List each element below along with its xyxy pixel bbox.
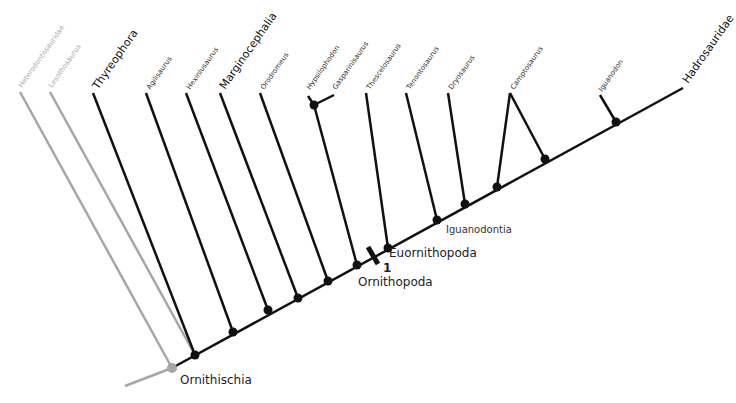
taxon-label: Orodromeus	[259, 51, 291, 91]
node	[294, 294, 303, 303]
node	[324, 277, 333, 286]
node-ornithischia	[167, 363, 177, 373]
taxon-label: Agilisaurus	[145, 55, 174, 91]
nodes	[167, 101, 621, 374]
node	[541, 155, 550, 164]
taxon-label: Hexinlusaurus	[185, 46, 220, 92]
clade-label-iguanodontia: Iguanodontia	[446, 224, 512, 235]
taxon-label: Tenontosaurus	[405, 45, 442, 92]
taxon-label: Hadrosauridae	[680, 12, 736, 86]
ingroup-branches	[93, 88, 683, 368]
branch-heterodontosauridae	[20, 92, 172, 368]
cladogram: Heterodontosauridae Lesothosaurus Thyreo…	[0, 0, 736, 403]
node	[461, 200, 470, 209]
node	[493, 183, 502, 192]
node-hypsilophodon-gasparinisaurus	[310, 101, 319, 110]
branch-hexinlusaurus	[186, 93, 268, 310]
taxon-label: Lesothosaurus	[47, 43, 83, 90]
node	[191, 351, 200, 360]
branch-lesothosaurus	[50, 92, 195, 355]
node	[612, 118, 621, 127]
taxon-label: Iguanodon	[597, 58, 625, 93]
branch-agilisaurus	[146, 93, 233, 332]
clade-label-ornithischia: Ornithischia	[180, 373, 252, 387]
taxon-label: Thyreophora	[89, 27, 140, 93]
node	[264, 306, 273, 315]
node-iguanodontia	[433, 216, 442, 225]
branch-marginocephalia	[220, 93, 298, 298]
branch-iguanodon	[600, 95, 616, 122]
branch-camptosaurus-join	[497, 93, 510, 187]
clade-label-euornithopoda: Euornithopoda	[389, 246, 477, 260]
branch-camptosaurus	[510, 93, 545, 159]
branch-dryosaurus	[448, 93, 465, 204]
branch-tenontosaurus	[406, 93, 437, 220]
synapomorphy-marker-number: 1	[383, 261, 391, 275]
main-spine	[172, 88, 683, 368]
node-ornithopoda	[353, 261, 362, 270]
taxon-label: Camptosaurus	[509, 45, 545, 91]
branch-hypsilophodontid-stem	[314, 105, 357, 265]
taxon-label: Thescelosaurus	[365, 42, 404, 92]
root-stem	[125, 368, 172, 386]
branch-thescelosaurus	[366, 93, 388, 248]
clade-label-ornithopoda: Ornithopoda	[358, 275, 433, 289]
node	[229, 328, 238, 337]
taxon-label: Dryosaurus	[447, 53, 477, 91]
outgroup-branches	[20, 92, 195, 386]
